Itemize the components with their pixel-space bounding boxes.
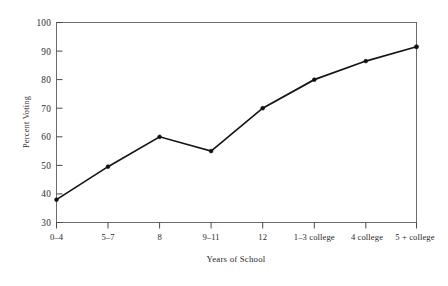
xtick-label: 0–4 <box>50 232 64 242</box>
ytick-label: 40 <box>41 189 51 199</box>
chart-figure: 100 90 80 70 60 50 40 30 0–4 5–7 8 9–11 <box>0 0 448 286</box>
xtick-label: 1–3 college <box>294 232 335 242</box>
data-point-markers <box>55 45 419 202</box>
data-point <box>55 198 59 202</box>
ytick-label: 30 <box>41 218 51 228</box>
xtick-label: 12 <box>258 232 267 242</box>
data-point <box>364 59 368 63</box>
ytick-label: 90 <box>41 47 51 57</box>
data-series-line <box>57 47 417 200</box>
x-axis-tick-labels: 0–4 5–7 8 9–11 12 1–3 college 4 college … <box>50 232 435 242</box>
y-axis-tick-labels: 100 90 80 70 60 50 40 30 <box>36 18 51 228</box>
x-axis-title: Years of School <box>207 254 266 264</box>
ytick-label: 100 <box>36 18 51 28</box>
data-point <box>414 45 418 49</box>
data-point <box>106 165 110 169</box>
plot-frame <box>57 23 417 223</box>
xtick-label: 8 <box>157 232 161 242</box>
data-point <box>261 106 265 110</box>
xtick-label: 5 + college <box>395 232 434 242</box>
y-axis-ticks <box>57 23 63 223</box>
ytick-label: 80 <box>41 75 51 85</box>
line-chart: 100 90 80 70 60 50 40 30 0–4 5–7 8 9–11 <box>0 0 448 286</box>
xtick-label: 9–11 <box>202 232 219 242</box>
ytick-label: 50 <box>41 161 51 171</box>
data-point <box>312 78 316 82</box>
y-axis-title: Percent Voting <box>22 95 31 148</box>
ytick-label: 60 <box>41 132 51 142</box>
ytick-label: 70 <box>41 104 51 114</box>
x-axis-ticks <box>57 223 417 229</box>
data-point <box>209 149 213 153</box>
xtick-label: 5–7 <box>101 232 115 242</box>
data-point <box>158 135 162 139</box>
xtick-label: 4 college <box>351 232 383 242</box>
